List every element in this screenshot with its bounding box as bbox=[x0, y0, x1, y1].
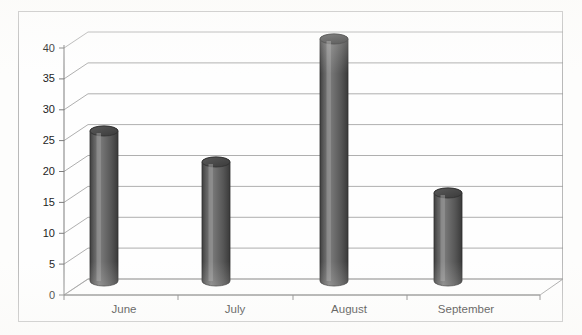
y-tick-label: 10 bbox=[43, 227, 55, 239]
x-axis bbox=[64, 295, 540, 300]
y-axis-tick-labels: 40 35 30 25 20 15 10 5 0 bbox=[43, 42, 55, 301]
bar-june[interactable] bbox=[90, 126, 118, 286]
y-tick-label: 40 bbox=[43, 42, 55, 54]
screenshot-root: 40 35 30 25 20 15 10 5 0 bbox=[0, 0, 582, 335]
x-category-label-september: September bbox=[438, 303, 494, 315]
bar-september[interactable] bbox=[434, 188, 462, 286]
bar-chart: 40 35 30 25 20 15 10 5 0 bbox=[0, 0, 582, 335]
x-category-label-july: July bbox=[225, 303, 246, 315]
y-tick-label: 30 bbox=[43, 103, 55, 115]
y-tick-label: 15 bbox=[43, 196, 55, 208]
bar-august[interactable] bbox=[320, 34, 348, 286]
chart-floor bbox=[64, 279, 563, 295]
y-tick-label: 20 bbox=[43, 165, 55, 177]
x-category-label-june: June bbox=[112, 303, 137, 315]
y-axis bbox=[59, 45, 64, 295]
bar-july[interactable] bbox=[202, 157, 230, 286]
depth-connectors bbox=[64, 32, 88, 295]
x-axis-category-labels: June July August September bbox=[112, 303, 495, 315]
y-tick-label: 35 bbox=[43, 72, 55, 84]
y-tick-label: 5 bbox=[49, 258, 55, 270]
x-category-label-august: August bbox=[331, 303, 368, 315]
y-tick-label: 25 bbox=[43, 134, 55, 146]
y-tick-label: 0 bbox=[49, 289, 55, 301]
